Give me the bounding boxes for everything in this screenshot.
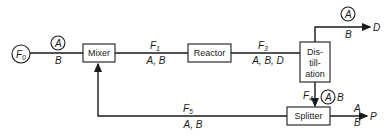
svg-text:A: A xyxy=(324,92,332,103)
top-component-a-circle: A xyxy=(341,7,355,21)
feed-component-b: B xyxy=(55,55,62,66)
feed-node: F0 xyxy=(12,45,30,63)
svg-text:Splitter: Splitter xyxy=(294,111,322,121)
reactor-unit: Reactor xyxy=(188,44,231,62)
mixer-unit: Mixer xyxy=(83,44,115,62)
top-component-b: B xyxy=(345,29,352,40)
stream-f1-label: F1 xyxy=(150,40,160,52)
svg-text:Dis-: Dis- xyxy=(307,47,323,57)
product-component-b: B xyxy=(354,117,361,128)
product-d-label: D xyxy=(373,22,380,33)
stream-f1-components: A, B xyxy=(146,55,166,66)
svg-text:Reactor: Reactor xyxy=(194,48,226,58)
stream-f3-components: A, B, D xyxy=(251,55,284,66)
feed-component-a-circle: A xyxy=(51,36,65,50)
product-component-a: A xyxy=(353,103,361,114)
f4-component-a-circle: A xyxy=(321,90,335,104)
stream-f4-label: F4 xyxy=(303,90,313,102)
svg-text:Mixer: Mixer xyxy=(88,48,110,58)
distillation-unit: Dis- till- ation xyxy=(300,42,330,82)
top-stream-line xyxy=(315,27,370,42)
f4-component-b: B xyxy=(337,92,344,103)
splitter-unit: Splitter xyxy=(287,107,330,125)
process-flow-diagram: F0 A B Mixer F1 A, B Reactor F3 A, B, D … xyxy=(0,0,391,136)
svg-text:A: A xyxy=(54,38,62,49)
svg-text:till-: till- xyxy=(309,58,321,68)
svg-text:A: A xyxy=(344,9,352,20)
svg-text:ation: ation xyxy=(305,69,325,79)
product-p-label: P xyxy=(370,111,377,122)
stream-f5-label: F5 xyxy=(183,103,193,115)
stream-f5-components: A, B xyxy=(183,119,203,130)
stream-f3-label: F3 xyxy=(258,40,268,52)
